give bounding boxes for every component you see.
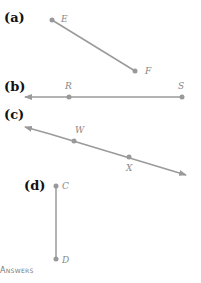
figure-d-label: (d): [24, 178, 45, 193]
point-s: [180, 95, 185, 100]
point-f-label: F: [144, 66, 152, 76]
point-e: [50, 18, 55, 23]
point-s-label: S: [178, 81, 184, 91]
geometry-diagram: (a) E F (b) R S (c) W X (d) C D: [0, 0, 201, 283]
figure-c-line-wx: (c) W X: [4, 107, 186, 175]
point-x: [127, 155, 132, 160]
point-d: [54, 257, 59, 262]
point-c: [54, 184, 59, 189]
figure-b-ray-sr: (b) R S: [4, 79, 185, 100]
point-r-label: R: [64, 81, 72, 91]
figure-a-segment-ef: (a) E F: [4, 10, 152, 76]
point-d-label: D: [61, 255, 69, 265]
figure-a-label: (a): [4, 10, 25, 25]
figure-b-label: (b): [4, 79, 25, 94]
point-w: [72, 139, 77, 144]
point-f: [133, 69, 138, 74]
figure-d-segment-cd: (d) C D: [24, 178, 69, 265]
answers-heading: Answers: [0, 266, 34, 275]
point-e-label: E: [60, 14, 68, 24]
point-c-label: C: [62, 181, 69, 191]
point-w-label: W: [75, 125, 85, 135]
figure-c-label: (c): [4, 107, 24, 122]
point-x-label: X: [125, 163, 133, 173]
point-r: [67, 95, 72, 100]
